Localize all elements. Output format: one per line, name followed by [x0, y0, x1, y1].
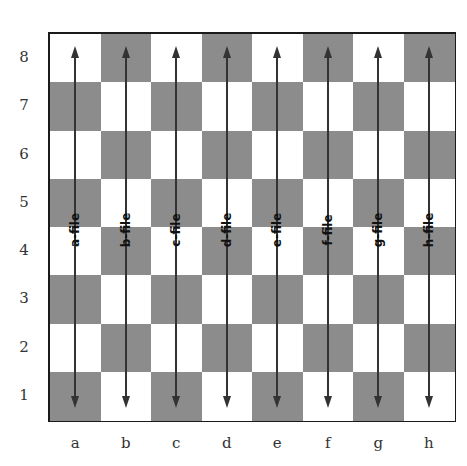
file-label-e: e: [267, 434, 287, 452]
arrow-down-icon: [223, 396, 231, 408]
file-label-d: d: [217, 434, 237, 452]
arrow-up-icon: [324, 46, 332, 58]
arrow-down-icon: [122, 396, 130, 408]
rank-label-8: 8: [14, 48, 34, 66]
file-name-label: e-file: [270, 210, 284, 250]
file-name-label: b-file: [119, 210, 133, 251]
arrow-down-icon: [324, 396, 332, 408]
rank-label-3: 3: [14, 289, 34, 307]
arrow-up-icon: [172, 46, 180, 58]
rank-label-5: 5: [14, 193, 34, 211]
chessboard: [48, 32, 456, 422]
file-name-label: f-file: [321, 211, 335, 248]
file-name-label: h-file: [422, 210, 436, 251]
file-label-a: a: [65, 434, 85, 452]
rank-label-6: 6: [14, 145, 34, 163]
arrow-down-icon: [273, 396, 281, 408]
file-name-label: d-file: [220, 210, 234, 251]
file-label-h: h: [419, 434, 439, 452]
rank-label-2: 2: [14, 338, 34, 356]
file-label-g: g: [368, 434, 388, 452]
file-name-label: c-file: [169, 210, 183, 249]
file-name-label: g-file: [371, 210, 385, 251]
arrow-up-icon: [71, 46, 79, 58]
file-label-f: f: [318, 434, 338, 452]
rank-label-1: 1: [14, 386, 34, 404]
arrow-up-icon: [374, 46, 382, 58]
arrow-up-icon: [223, 46, 231, 58]
arrow-down-icon: [374, 396, 382, 408]
arrow-up-icon: [273, 46, 281, 58]
arrow-down-icon: [425, 396, 433, 408]
arrow-up-icon: [122, 46, 130, 58]
rank-label-7: 7: [14, 96, 34, 114]
rank-label-4: 4: [14, 241, 34, 259]
arrow-up-icon: [425, 46, 433, 58]
arrow-down-icon: [172, 396, 180, 408]
file-name-label: a-file: [68, 210, 82, 250]
arrow-down-icon: [71, 396, 79, 408]
file-label-b: b: [116, 434, 136, 452]
file-label-c: c: [166, 434, 186, 452]
